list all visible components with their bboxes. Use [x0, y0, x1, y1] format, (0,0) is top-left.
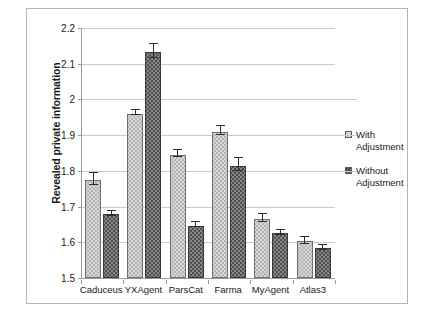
legend-connector-line — [335, 171, 357, 172]
bar[interactable] — [212, 132, 228, 278]
x-axis-tick-label: Atlas3 — [300, 284, 326, 295]
x-axis-tick-label: YXAgent — [125, 284, 163, 295]
x-axis-tick — [123, 280, 124, 284]
error-bar-cap-top — [89, 172, 98, 173]
y-axis-tick — [78, 278, 82, 279]
x-axis-tick — [166, 280, 167, 284]
bar-group — [294, 28, 336, 278]
bar-group — [124, 28, 166, 278]
error-bar-cap-top — [216, 125, 225, 126]
bar[interactable] — [230, 166, 246, 279]
bar[interactable] — [103, 214, 119, 278]
error-bar-cap-top — [149, 43, 158, 44]
chart-legend: With Adjustment Without Adjustment — [345, 129, 407, 201]
bar[interactable] — [188, 226, 204, 278]
error-bar-cap-bottom — [300, 243, 309, 244]
error-bar-cap-bottom — [318, 249, 327, 250]
legend-label-line1: Without — [356, 165, 388, 176]
x-axis-tick — [250, 280, 251, 284]
bar-group — [209, 28, 251, 278]
error-bar-cap-top — [131, 109, 140, 110]
legend-label-line2: Adjustment — [356, 177, 404, 188]
error-bar-cap-bottom — [216, 134, 225, 135]
gridline — [82, 278, 335, 279]
error-bar-cap-top — [318, 244, 327, 245]
error-bar-cap-top — [191, 221, 200, 222]
x-axis-tick — [208, 280, 209, 284]
y-axis-tick-label: 1.8 — [61, 165, 75, 176]
error-bar-cap-top — [300, 236, 309, 237]
error-bar-cap-bottom — [276, 234, 285, 235]
x-axis-tick — [293, 280, 294, 284]
x-axis-tick-label: Farma — [214, 284, 241, 295]
error-bar-cap-top — [107, 210, 116, 211]
y-axis-tick-label: 1.7 — [61, 201, 75, 212]
bar-group — [167, 28, 209, 278]
plot-area: 2.22.121.91.81.71.61.5 — [81, 28, 335, 278]
error-bar-cap-top — [276, 229, 285, 230]
legend-label-line1: With — [356, 129, 375, 140]
x-axis-tick-label: MyAgent — [252, 284, 290, 295]
bar[interactable] — [272, 233, 288, 278]
error-bar-cap-top — [258, 213, 267, 214]
bar-series-container — [82, 28, 335, 278]
bar-group — [251, 28, 293, 278]
error-bar-cap-bottom — [107, 215, 116, 216]
legend-label-line2: Adjustment — [356, 141, 404, 152]
error-bar-stem — [153, 44, 154, 58]
y-axis-tick-label: 1.6 — [61, 237, 75, 248]
legend-connector-line — [335, 135, 357, 136]
x-axis-labels: CaduceusYXAgentParsCatFarmaMyAgentAtlas3 — [81, 284, 335, 304]
legend-connector-line — [335, 99, 357, 100]
y-axis-tick-label: 2.1 — [61, 58, 75, 69]
bar[interactable] — [127, 114, 143, 278]
error-bar-cap-top — [234, 157, 243, 158]
y-axis-tick-label: 2.2 — [61, 23, 75, 34]
bar[interactable] — [254, 219, 270, 278]
chart-figure: Revealed private information 2.22.121.91… — [26, 8, 408, 304]
error-bar-cap-bottom — [258, 221, 267, 222]
error-bar-cap-bottom — [131, 114, 140, 115]
error-bar-cap-bottom — [191, 226, 200, 227]
error-bar-cap-bottom — [149, 57, 158, 58]
error-bar-cap-bottom — [234, 170, 243, 171]
x-axis-tick-label: Caduceus — [80, 284, 123, 295]
bar[interactable] — [297, 241, 313, 278]
x-axis-tick — [81, 280, 82, 284]
bar[interactable] — [170, 155, 186, 278]
bar[interactable] — [85, 180, 101, 278]
error-bar-cap-bottom — [173, 156, 182, 157]
bar[interactable] — [145, 52, 161, 278]
legend-item-without-adjustment: Without Adjustment — [345, 165, 407, 188]
y-axis-tick-label: 1.9 — [61, 130, 75, 141]
bar[interactable] — [315, 248, 331, 278]
legend-item-with-adjustment: With Adjustment — [345, 129, 407, 152]
y-axis-tick-label: 1.5 — [61, 273, 75, 284]
bar-group — [82, 28, 124, 278]
x-axis-tick — [335, 280, 336, 284]
error-bar-cap-bottom — [89, 184, 98, 185]
x-axis-tick-label: ParsCat — [169, 284, 203, 295]
y-axis-tick-label: 2 — [69, 94, 75, 105]
error-bar-cap-top — [173, 149, 182, 150]
